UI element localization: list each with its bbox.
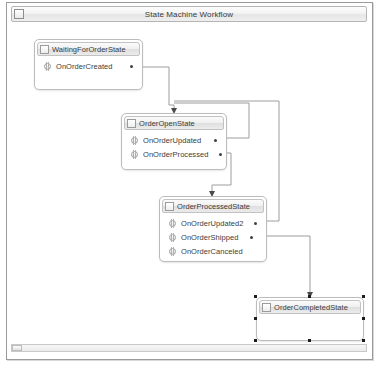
state-box-order-processed-state[interactable]: OrderProcessedState OnOrderUpdated2 OnOr… [159, 196, 267, 262]
state-box-order-completed-state[interactable]: OrderCompletedState [256, 297, 364, 341]
selection-handle-middle-right[interactable] [362, 317, 365, 320]
state-header[interactable]: OrderProcessedState [162, 199, 264, 213]
event-row-on-order-shipped[interactable]: OnOrderShipped [160, 230, 266, 244]
event-driven-activity-icon [130, 136, 139, 145]
selection-handle-top-center[interactable] [308, 295, 311, 298]
state-box-order-open-state[interactable]: OrderOpenState OnOrderUpdated OnOrderPro… [121, 113, 227, 170]
event-driven-activity-icon [168, 219, 177, 228]
state-body [257, 314, 363, 347]
state-body: OnOrderUpdated2 OnOrderShipped OnOrderCa… [160, 213, 266, 262]
window-restore-icon[interactable] [14, 9, 24, 19]
connection-point-dot[interactable] [214, 139, 217, 142]
event-label: OnOrderProcessed [143, 150, 208, 159]
event-label: OnOrderUpdated [143, 136, 201, 145]
state-header[interactable]: OrderCompletedState [259, 300, 361, 314]
designer-title-bar: State Machine Workflow [11, 6, 367, 22]
horizontal-scroll-thumb[interactable] [12, 345, 22, 351]
event-driven-activity-icon [168, 233, 177, 242]
event-driven-activity-icon [168, 247, 177, 256]
selection-handle-top-right[interactable] [362, 295, 365, 298]
state-activity-icon [40, 45, 49, 54]
event-row-on-order-updated[interactable]: OnOrderUpdated [122, 133, 226, 147]
connection-point-dot[interactable] [130, 65, 133, 68]
state-activity-icon [262, 303, 271, 312]
state-activity-icon [165, 202, 174, 211]
event-driven-activity-icon [130, 150, 139, 159]
event-label: OnOrderCanceled [181, 247, 243, 256]
state-title: OrderProcessedState [177, 202, 250, 211]
connection-point-dot[interactable] [250, 236, 253, 239]
state-title: OrderCompletedState [274, 303, 348, 312]
workflow-canvas[interactable]: WaitingForOrderState OnOrderCreated Orde… [11, 25, 367, 353]
event-driven-activity-icon [43, 62, 52, 71]
connection-point-dot[interactable] [219, 153, 222, 156]
state-body: OnOrderCreated [35, 56, 142, 77]
event-label: OnOrderUpdated2 [181, 219, 243, 228]
state-title: OrderOpenState [139, 119, 195, 128]
event-row-on-order-updated-2[interactable]: OnOrderUpdated2 [160, 216, 266, 230]
event-label: OnOrderCreated [56, 62, 113, 71]
event-row-on-order-created[interactable]: OnOrderCreated [35, 59, 142, 73]
workflow-designer-frame: State Machine Workflow W [6, 2, 373, 360]
state-body: OnOrderUpdated OnOrderProcessed [122, 130, 226, 165]
event-row-on-order-processed[interactable]: OnOrderProcessed [122, 147, 226, 161]
event-label: OnOrderShipped [181, 233, 238, 242]
connection-point-dot[interactable] [254, 222, 257, 225]
horizontal-scrollbar[interactable] [11, 344, 367, 352]
selection-handle-bottom-left[interactable] [254, 339, 257, 342]
selection-handle-top-left[interactable] [254, 295, 257, 298]
state-activity-icon [127, 119, 136, 128]
state-title: WaitingForOrderState [52, 45, 126, 54]
state-box-waiting-for-order-state[interactable]: WaitingForOrderState OnOrderCreated [34, 39, 143, 90]
state-header[interactable]: OrderOpenState [124, 116, 224, 130]
page-title: State Machine Workflow [24, 10, 354, 19]
state-header[interactable]: WaitingForOrderState [37, 42, 140, 56]
selection-handle-bottom-right[interactable] [362, 339, 365, 342]
event-row-on-order-canceled[interactable]: OnOrderCanceled [160, 244, 266, 258]
selection-handle-middle-left[interactable] [254, 317, 257, 320]
selection-handle-bottom-center[interactable] [308, 339, 311, 342]
